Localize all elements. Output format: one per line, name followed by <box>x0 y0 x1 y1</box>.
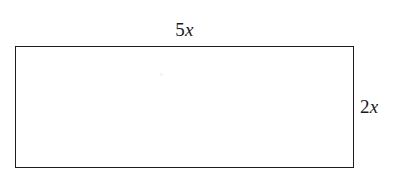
width-coefficient: 5 <box>175 19 185 40</box>
height-variable: x <box>370 96 379 117</box>
scan-artifact-speck <box>160 73 163 76</box>
height-coefficient: 2 <box>360 96 370 117</box>
dimension-label-width: 5x <box>0 20 369 39</box>
rectangle-shape <box>15 46 354 168</box>
dimension-label-height: 2x <box>360 97 379 116</box>
geometry-figure-canvas: 5x 2x <box>0 0 406 185</box>
width-variable: x <box>185 19 194 40</box>
